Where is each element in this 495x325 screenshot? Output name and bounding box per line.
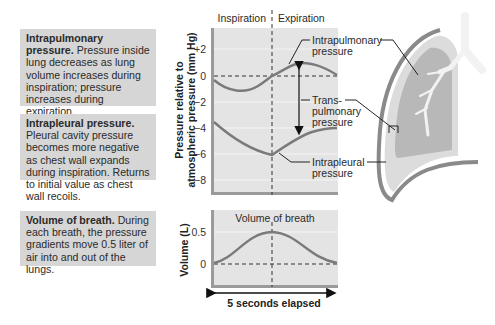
time-label: 5 seconds elapsed: [227, 297, 320, 309]
pressure-chart: +2 0 −2 −4 −6 −8 Pressure relative to at…: [173, 10, 383, 195]
phase-expiration: Expiration: [278, 12, 325, 24]
lung-tissue: [395, 48, 452, 158]
svg-text:Volume (L): Volume (L): [178, 223, 190, 276]
volume-chart: Volume of breath 0.5 0 Volume (L) 5 seco…: [178, 210, 338, 309]
pressure-x-axis: [211, 192, 338, 195]
ytick-vol-0: 0: [200, 258, 206, 270]
phase-inspiration: Inspiration: [218, 12, 267, 24]
svg-text:atmospheric pressure (mm Hg): atmospheric pressure (mm Hg): [185, 32, 197, 187]
intrapleural-label-2: pressure: [312, 167, 353, 179]
pressure-y-axis: [211, 28, 214, 195]
svg-text:Pressure relative to: Pressure relative to: [173, 61, 185, 158]
volume-y-label: Volume (L): [178, 223, 190, 276]
intrapulmonary-label-2: pressure: [312, 45, 353, 57]
volume-chart-title: Volume of breath: [235, 212, 315, 224]
pressure-y-label: Pressure relative to atmospheric pressur…: [173, 32, 197, 187]
ytick-0: 0: [200, 70, 206, 82]
volume-x-axis: [211, 285, 338, 288]
diagram-canvas: +2 0 −2 −4 −6 −8 Pressure relative to at…: [0, 0, 495, 325]
ytick-0-5: 0.5: [191, 226, 206, 238]
transpulmonary-label-3: pressure: [312, 116, 353, 128]
volume-y-axis: [211, 210, 214, 288]
